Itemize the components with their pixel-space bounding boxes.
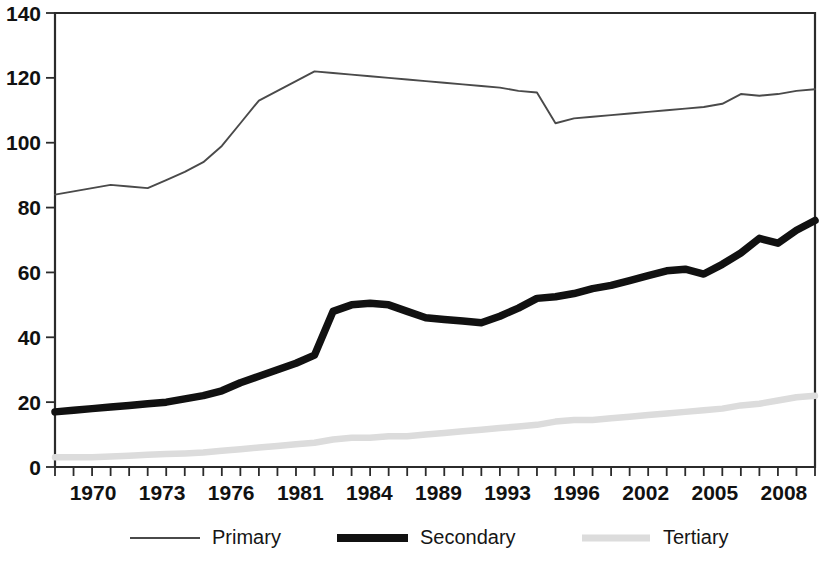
legend-item-tertiary: Tertiary	[582, 526, 729, 548]
legend-item-primary: Primary	[130, 526, 281, 548]
y-tick-label: 60	[18, 261, 41, 284]
x-tick-label: 2002	[622, 481, 669, 504]
x-tick-label: 1984	[346, 481, 393, 504]
y-tick-label: 20	[18, 391, 41, 414]
legend-label-secondary: Secondary	[420, 526, 516, 548]
line-chart-figure: 020406080100120140 197019731976198119841…	[0, 0, 821, 564]
y-tick-label: 100	[6, 131, 41, 154]
x-tick-label: 1981	[277, 481, 324, 504]
y-tick-label: 140	[6, 2, 41, 25]
x-tick-label: 1993	[484, 481, 531, 504]
x-tick-label: 1996	[553, 481, 600, 504]
y-axis-labels: 020406080100120140	[6, 2, 41, 479]
x-tick-label: 1973	[139, 481, 186, 504]
legend-item-secondary: Secondary	[337, 526, 516, 548]
chart-svg: 020406080100120140 197019731976198119841…	[0, 0, 821, 564]
x-tick-label: 1989	[415, 481, 462, 504]
y-tick-label: 0	[29, 456, 41, 479]
x-tick-label: 1970	[70, 481, 117, 504]
y-tick-label: 40	[18, 326, 41, 349]
y-tick-label: 80	[18, 196, 41, 219]
x-axis-labels: 1970197319761981198419891993199620022005…	[70, 481, 808, 504]
legend-label-tertiary: Tertiary	[663, 526, 729, 548]
series-line-secondary	[55, 221, 815, 412]
y-tick-label: 120	[6, 66, 41, 89]
x-tick-label: 2008	[761, 481, 808, 504]
legend-label-primary: Primary	[212, 526, 281, 548]
chart-legend: Primary Secondary Tertiary	[130, 526, 729, 548]
y-axis-tickmarks	[46, 13, 55, 467]
data-series-layer	[55, 71, 815, 457]
x-tick-label: 2005	[691, 481, 738, 504]
series-line-primary	[55, 71, 815, 194]
x-tick-label: 1976	[208, 481, 255, 504]
x-axis-tickmarks	[55, 467, 815, 476]
